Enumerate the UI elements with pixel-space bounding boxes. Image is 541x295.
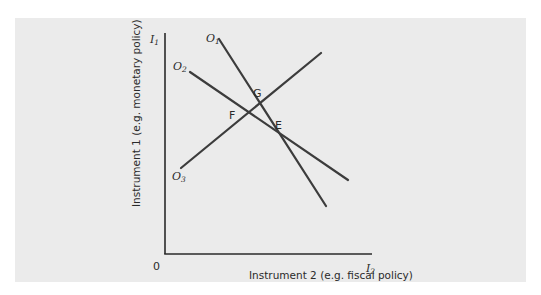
y-axis-title: Instrument 1 (e.g. monetary policy)	[130, 19, 142, 207]
O1-label: O1	[206, 32, 220, 46]
point-E-label: E	[275, 119, 282, 132]
O2-label: O2	[173, 60, 187, 74]
line-O3	[181, 53, 321, 168]
O3-label: O3	[172, 170, 186, 184]
policy-instruments-diagram: I1 I2 0 O1 O2 O3 G F E Instrument 2 (e.g…	[0, 0, 541, 295]
point-G-label: G	[253, 87, 262, 100]
I1-label: I1	[149, 33, 159, 47]
point-F-label: F	[229, 109, 235, 122]
line-O2	[190, 72, 348, 180]
x-axis-title: Instrument 2 (e.g. fiscal policy)	[249, 269, 413, 281]
origin-label: 0	[153, 260, 160, 273]
